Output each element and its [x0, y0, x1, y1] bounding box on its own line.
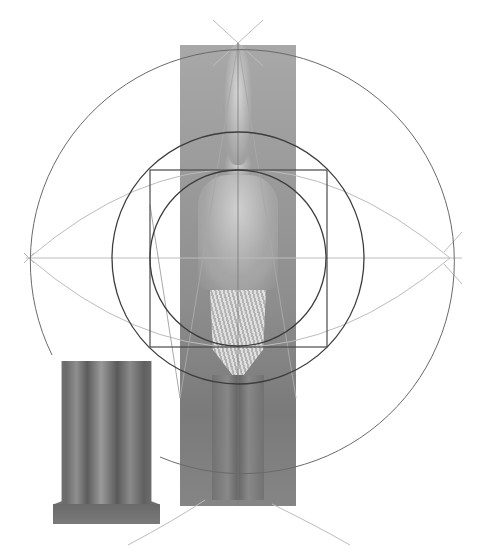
lens-lower-arc [29, 258, 450, 347]
lens-upper-arc [29, 169, 450, 258]
bottom-right-arc [272, 504, 350, 545]
outer-circle [30, 50, 454, 474]
geometry-overlay [0, 0, 477, 558]
bottom-left-arc [128, 500, 205, 545]
proportion-diagram [0, 0, 477, 558]
